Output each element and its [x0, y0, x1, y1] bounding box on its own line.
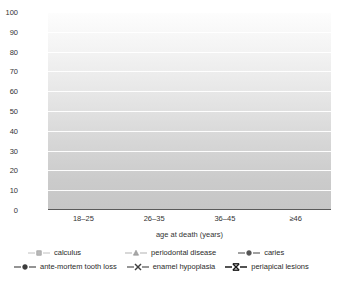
- legend-item-caries[interactable]: caries: [238, 248, 284, 258]
- legend-item-periapical-lesions[interactable]: periapical lesions: [225, 262, 309, 272]
- gridline: [48, 170, 331, 171]
- legend-label: caries: [264, 248, 284, 258]
- legend-item-ante-mortem-tooth-loss[interactable]: ante-mortem tooth loss: [14, 262, 117, 272]
- gridline: [48, 111, 331, 112]
- x-tick-label: 36–45: [214, 214, 235, 223]
- legend-x-icon: [127, 262, 149, 272]
- legend-row: ante-mortem tooth lossenamel hypoplasiap…: [14, 260, 344, 274]
- legend-triangle-icon: [125, 248, 147, 258]
- x-tick-label: ≥46: [289, 214, 301, 223]
- plot-area: [48, 12, 331, 210]
- y-tick-label: 30: [0, 146, 18, 155]
- gridline: [48, 32, 331, 33]
- legend-label: periodontal disease: [151, 248, 216, 258]
- legend-square-icon: [28, 248, 50, 258]
- gridline: [48, 131, 331, 132]
- y-tick-label: 10: [0, 186, 18, 195]
- legend-circle-icon: [238, 248, 260, 258]
- y-tick-label: 20: [0, 166, 18, 175]
- gridline: [48, 71, 331, 72]
- y-tick-label: 100: [0, 8, 18, 17]
- legend-label: periapical lesions: [251, 262, 309, 272]
- y-tick-label: 60: [0, 87, 18, 96]
- legend-label: ante-mortem tooth loss: [40, 262, 117, 272]
- legend-item-periodontal-disease[interactable]: periodontal disease: [125, 248, 216, 258]
- y-tick-label: 50: [0, 107, 18, 116]
- gridline: [48, 190, 331, 191]
- gridline: [48, 91, 331, 92]
- y-tick-label: 70: [0, 67, 18, 76]
- y-tick-label: 90: [0, 27, 18, 36]
- x-tick-label: 26–35: [144, 214, 165, 223]
- legend-item-enamel-hypoplasia[interactable]: enamel hypoplasia: [127, 262, 216, 272]
- marker-triangle: [134, 250, 139, 255]
- legend-label: enamel hypoplasia: [153, 262, 216, 272]
- x-tick-label: 18–25: [73, 214, 94, 223]
- legend-item-calculus[interactable]: calculus: [28, 248, 81, 258]
- marker-circle: [23, 265, 28, 270]
- x-axis-line: [48, 209, 331, 210]
- y-tick-label: 0: [0, 206, 18, 215]
- x-axis-label: age at death (years): [48, 230, 331, 239]
- chart-legend: calculusperiodontal diseasecaries ante-m…: [14, 246, 344, 274]
- legend-label: calculus: [54, 248, 81, 258]
- legend-x-bar-icon: [225, 262, 247, 272]
- legend-circle-icon: [14, 262, 36, 272]
- marker-circle: [247, 251, 252, 256]
- gridline: [48, 12, 331, 13]
- marker-square: [37, 251, 41, 255]
- y-tick-label: 80: [0, 47, 18, 56]
- gridline: [48, 151, 331, 152]
- legend-row: calculusperiodontal diseasecaries: [14, 246, 344, 260]
- chart-figure: % prevalence 1009080706050403020100 18–2…: [0, 0, 354, 289]
- y-tick-label: 40: [0, 126, 18, 135]
- gridline: [48, 52, 331, 53]
